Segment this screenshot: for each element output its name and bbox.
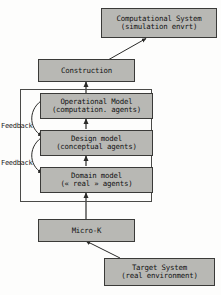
node-domain-model[interactable]: Domain model (« real » agents) [40, 167, 153, 193]
node-domain-model-line2: (« real » agents) [60, 180, 132, 188]
node-design-model-line2: (conceptual agents) [56, 143, 137, 151]
edge-target-to-microk [86, 241, 120, 258]
node-target-system-line2: (real environment) [121, 272, 198, 280]
node-operational-model-line2: (computation. agents) [52, 106, 141, 114]
diagram-canvas: Computational System (simulation envrt) … [0, 0, 221, 295]
node-micro-k[interactable]: Micro-K [38, 219, 135, 242]
edge-construction-to-computational-system [108, 39, 146, 61]
node-construction[interactable]: Construction [38, 59, 135, 82]
node-computational-system[interactable]: Computational System (simulation envrt) [101, 8, 217, 38]
node-design-model[interactable]: Design model (conceptual agents) [40, 130, 153, 156]
node-target-system[interactable]: Target System (real environment) [104, 258, 215, 286]
label-feedback-upper: Feedback [1, 122, 32, 130]
node-operational-model[interactable]: Operational Model (computation. agents) [40, 93, 153, 119]
node-micro-k-line1: Micro-K [72, 227, 102, 235]
label-feedback-lower: Feedback [1, 159, 32, 167]
node-construction-line1: Construction [61, 67, 112, 75]
node-computational-system-line2: (simulation envrt) [121, 23, 198, 31]
